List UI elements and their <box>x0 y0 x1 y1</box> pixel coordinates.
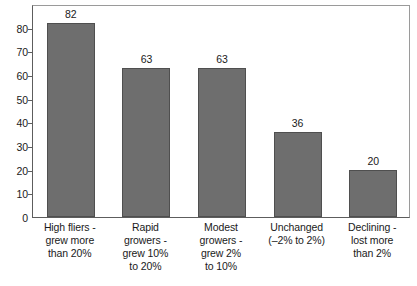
y-tick-label: 70 <box>0 47 28 58</box>
y-tick-label: 10 <box>0 189 28 200</box>
x-category-label-line: Unchanged <box>259 221 335 234</box>
x-category-label-line: to 10% <box>183 260 259 273</box>
bar[interactable] <box>122 68 170 217</box>
x-category-label-line: growers - <box>183 234 259 247</box>
bar-group[interactable]: 63 <box>122 6 170 217</box>
y-tick-label: 60 <box>0 71 28 82</box>
x-category-label-line: lost more <box>334 234 410 247</box>
x-category-label: High fliers -grew morethan 20% <box>32 221 108 260</box>
bar-chart: 01020304050607080 8263633620 High fliers… <box>0 0 417 286</box>
y-tick-label: 0 <box>0 213 28 224</box>
bar[interactable] <box>349 170 397 217</box>
plot-area: 8263633620 <box>32 5 410 218</box>
y-tick-mark <box>28 123 32 124</box>
x-category-label: Unchanged(–2% to 2%) <box>259 221 335 247</box>
y-tick-mark <box>28 52 32 53</box>
y-tick-mark <box>28 100 32 101</box>
bar-group[interactable]: 82 <box>47 6 95 217</box>
y-tick-label: 30 <box>0 142 28 153</box>
bar-value-label: 82 <box>65 9 76 20</box>
x-category-label-line: grew 2% <box>183 247 259 260</box>
y-tick-mark <box>28 76 32 77</box>
x-category-label-line: than 20% <box>32 247 108 260</box>
bar-group[interactable]: 63 <box>198 6 246 217</box>
x-category-label-line: grew more <box>32 234 108 247</box>
y-tick-label: 50 <box>0 94 28 105</box>
x-category-label: Rapidgrowers -grew 10%to 20% <box>108 221 184 273</box>
bar-value-label: 63 <box>216 54 227 65</box>
bar-value-label: 63 <box>141 54 152 65</box>
bar[interactable] <box>274 132 322 217</box>
y-tick-label: 80 <box>0 23 28 34</box>
y-axis: 01020304050607080 <box>0 5 28 218</box>
bar[interactable] <box>198 68 246 217</box>
bar-value-label: 36 <box>292 118 303 129</box>
x-axis-category-labels: High fliers -grew morethan 20%Rapidgrowe… <box>32 221 410 283</box>
x-category-label-line: High fliers - <box>32 221 108 234</box>
x-category-label-line: than 2% <box>334 247 410 260</box>
x-category-label-line: Rapid <box>108 221 184 234</box>
x-category-label: Modestgrowers -grew 2%to 10% <box>183 221 259 273</box>
bar-value-label: 20 <box>367 156 378 167</box>
y-tick-mark <box>28 147 32 148</box>
x-category-label-line: Declining - <box>334 221 410 234</box>
x-category-label-line: growers - <box>108 234 184 247</box>
x-category-label: Declining -lost morethan 2% <box>334 221 410 260</box>
bar-group[interactable]: 20 <box>349 6 397 217</box>
y-tick-mark <box>28 194 32 195</box>
y-tick-label: 20 <box>0 165 28 176</box>
x-category-label-line: (–2% to 2%) <box>259 234 335 247</box>
bar[interactable] <box>47 23 95 217</box>
x-category-label-line: to 20% <box>108 260 184 273</box>
bar-group[interactable]: 36 <box>274 6 322 217</box>
y-tick-mark <box>28 29 32 30</box>
x-category-label-line: Modest <box>183 221 259 234</box>
y-tick-mark <box>28 171 32 172</box>
x-category-label-line: grew 10% <box>108 247 184 260</box>
y-tick-label: 40 <box>0 118 28 129</box>
